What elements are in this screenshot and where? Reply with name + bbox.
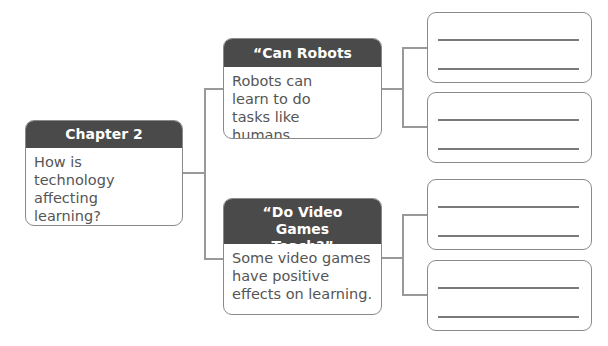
write-line[interactable] xyxy=(438,235,579,237)
branch-text: Some video games have positive effects o… xyxy=(224,244,381,308)
branch-box-robots: “Can Robots Learn?” Robots can learn to … xyxy=(223,38,382,139)
connector xyxy=(204,258,223,260)
connector xyxy=(402,294,427,296)
answer-box-4[interactable] xyxy=(427,260,592,331)
write-line[interactable] xyxy=(438,316,579,318)
write-line[interactable] xyxy=(438,39,579,41)
connector xyxy=(382,257,403,259)
connector xyxy=(402,47,427,49)
chapter-title: Chapter 2 xyxy=(26,121,182,148)
branch-box-video-games: “Do Video Games Teach?” Some video games… xyxy=(223,198,382,315)
connector xyxy=(183,172,205,174)
write-line[interactable] xyxy=(438,119,579,121)
write-line[interactable] xyxy=(438,287,579,289)
chapter-question: How is technology affecting learning? xyxy=(26,148,182,226)
answer-box-1[interactable] xyxy=(427,12,592,83)
branch-text: Robots can learn to do tasks like humans… xyxy=(224,67,381,139)
connector xyxy=(402,214,404,295)
branch-title: “Do Video Games Teach?” xyxy=(224,199,381,244)
connector xyxy=(402,47,404,127)
connector xyxy=(204,88,206,259)
connector xyxy=(402,126,427,128)
connector xyxy=(204,88,223,90)
branch-title: “Can Robots Learn?” xyxy=(224,39,381,67)
answer-box-2[interactable] xyxy=(427,92,592,163)
answer-box-3[interactable] xyxy=(427,179,592,250)
connector xyxy=(402,214,427,216)
connector xyxy=(382,88,403,90)
write-line[interactable] xyxy=(438,148,579,150)
write-line[interactable] xyxy=(438,206,579,208)
write-line[interactable] xyxy=(438,68,579,70)
chapter-box: Chapter 2 How is technology affecting le… xyxy=(25,120,183,226)
